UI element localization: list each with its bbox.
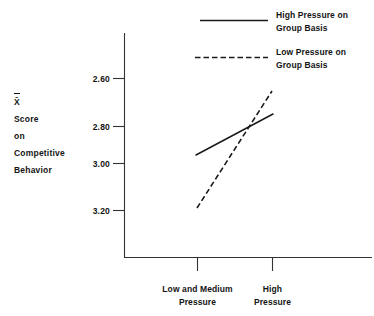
legend-entry-line-2: Group Basis xyxy=(276,22,372,35)
y-tick-label-2-60: 2.60 xyxy=(76,74,110,84)
y-tick-label-2-80: 2.80 xyxy=(76,122,110,132)
legend-entry-line-2: Group Basis xyxy=(276,59,372,72)
x-tick-label-line-1: High xyxy=(239,283,306,296)
legend-entry-low-pressure-on-group-basis: Low Pressure on Group Basis xyxy=(276,46,372,71)
x-tick-label-line-2: Pressure xyxy=(239,296,306,309)
x-tick-label-line-2: Pressure xyxy=(141,296,254,309)
y-axis-title-line-1: X̄ xyxy=(14,94,86,111)
chart-figure: X̄ Score on Competitive Behavior 2.60 2.… xyxy=(0,0,374,316)
x-tick-label-high-pressure: High Pressure xyxy=(239,283,306,308)
series-line-low-pressure-on-group-basis xyxy=(197,91,272,208)
x-tick-label-low-and-medium-pressure: Low and Medium Pressure xyxy=(141,283,254,308)
legend-entry-high-pressure-on-group-basis: High Pressure on Group Basis xyxy=(276,9,372,34)
legend-entry-line-1: Low Pressure on xyxy=(276,46,372,59)
x-tick-label-line-1: Low and Medium xyxy=(141,283,254,296)
legend-entry-line-1: High Pressure on xyxy=(276,9,372,22)
y-tick-label-3-00: 3.00 xyxy=(76,159,110,169)
y-tick-label-3-20: 3.20 xyxy=(76,206,110,216)
